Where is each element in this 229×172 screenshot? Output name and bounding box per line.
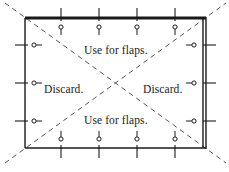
diagram-canvas: [0, 0, 229, 172]
pin-bottom-1-head: [97, 137, 101, 141]
pin-left-2-head: [32, 119, 36, 123]
pin-top-2-head: [135, 25, 139, 29]
quadrant-label-right: Discard.: [143, 83, 182, 95]
pin-top-3-head: [173, 25, 177, 29]
pin-bottom-2-head: [135, 137, 139, 141]
pin-top-1-head: [97, 25, 101, 29]
quadrant-label-top: Use for flaps.: [84, 44, 148, 56]
quadrant-label-bottom: Use for flaps.: [84, 114, 148, 126]
cutting-layout-diagram: Use for flaps. Discard. Discard. Use for…: [0, 0, 229, 172]
pin-left-1-head: [32, 81, 36, 85]
pin-right-0-head: [192, 43, 196, 47]
pin-right-1-head: [192, 81, 196, 85]
pin-top-0-head: [59, 25, 63, 29]
pin-bottom-0-head: [59, 137, 63, 141]
quadrant-label-left: Discard.: [44, 83, 83, 95]
pin-bottom-3-head: [173, 137, 177, 141]
pin-left-0-head: [32, 43, 36, 47]
pin-right-2-head: [192, 119, 196, 123]
